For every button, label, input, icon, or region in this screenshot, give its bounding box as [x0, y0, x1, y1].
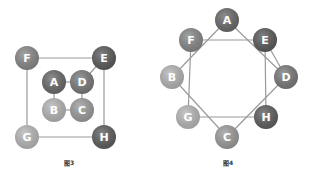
node-B: B — [42, 98, 66, 122]
diagram-canvas: FEADBCGH AFEBDGHC — [0, 0, 311, 182]
node-label: G — [22, 131, 31, 144]
node-D: D — [70, 70, 94, 94]
node-label: B — [168, 71, 176, 84]
node-label: D — [77, 76, 86, 89]
figure-4-graph: AFEBDGHC — [160, 8, 298, 149]
node-label: A — [50, 76, 59, 89]
node-E: E — [92, 46, 116, 70]
node-G: G — [15, 125, 39, 149]
edge-B-C — [172, 77, 227, 137]
node-label: C — [78, 104, 86, 117]
node-G: G — [176, 105, 200, 129]
node-label: G — [183, 111, 192, 124]
node-F: F — [179, 28, 203, 52]
edge-A-D — [227, 20, 286, 77]
node-label: A — [223, 14, 232, 27]
node-label: F — [23, 52, 31, 65]
node-A: A — [215, 8, 239, 32]
node-F: F — [15, 46, 39, 70]
node-label: H — [261, 111, 270, 124]
node-C: C — [215, 125, 239, 149]
node-label: E — [261, 34, 269, 47]
node-H: H — [254, 105, 278, 129]
node-C: C — [70, 98, 94, 122]
node-label: F — [187, 34, 195, 47]
edge-D-C — [227, 77, 286, 137]
node-D: D — [274, 65, 298, 89]
node-label: B — [50, 104, 58, 117]
node-A: A — [42, 70, 66, 94]
figure-4-nodes: AFEBDGHC — [160, 8, 298, 149]
figure-4-caption: 图4 — [223, 158, 233, 167]
figure-3-caption: 图3 — [64, 158, 74, 167]
node-label: H — [99, 131, 108, 144]
figure-3-nodes: FEADBCGH — [15, 46, 116, 149]
figure-3-graph: FEADBCGH — [15, 46, 116, 149]
node-B: B — [160, 65, 184, 89]
node-label: E — [100, 52, 108, 65]
node-label: C — [223, 131, 231, 144]
node-label: D — [281, 71, 290, 84]
node-E: E — [253, 28, 277, 52]
node-H: H — [92, 125, 116, 149]
figure-3-edges — [27, 58, 104, 137]
